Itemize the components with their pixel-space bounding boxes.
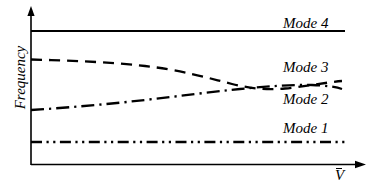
series-label-mode-2: Mode 2 <box>283 92 328 107</box>
x-axis-label-text: V <box>335 167 344 183</box>
y-axis-arrowhead <box>27 6 34 16</box>
y-axis-label: Frequency <box>13 28 28 128</box>
series-label-mode-1: Mode 1 <box>283 121 328 136</box>
frequency-vs-velocity-chart: Frequency V Mode 4 Mode 3 Mode 2 Mode 1 <box>0 0 370 185</box>
x-axis-label: V <box>335 167 344 183</box>
series-label-mode-4: Mode 4 <box>283 16 328 31</box>
x-axis-arrowhead <box>355 161 366 169</box>
series-label-mode-3: Mode 3 <box>283 60 328 75</box>
